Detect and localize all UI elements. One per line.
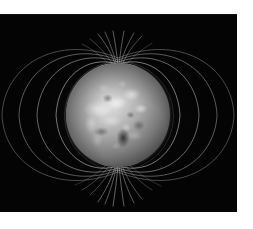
magnetic-field-lines (0, 14, 237, 212)
caption-area (0, 212, 253, 229)
magnetic-field-image-plate (0, 14, 237, 212)
figure-root (0, 0, 253, 229)
